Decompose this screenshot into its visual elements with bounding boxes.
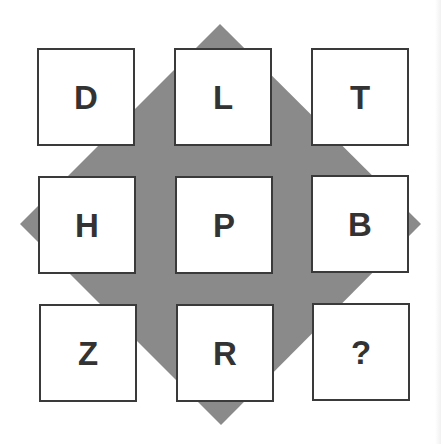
grid-cell-r1c0: H bbox=[38, 176, 136, 274]
puzzle-canvas: D L T H P B Z R ? bbox=[0, 0, 441, 444]
grid-cell-r2c1: R bbox=[176, 304, 274, 402]
cell-letter: T bbox=[350, 81, 370, 114]
grid-cell-r1c1: P bbox=[175, 176, 273, 274]
grid-cell-r1c2: B bbox=[311, 175, 409, 273]
cell-letter: R bbox=[213, 337, 237, 370]
cell-letter: Z bbox=[78, 337, 98, 370]
cell-letter: B bbox=[348, 208, 372, 241]
grid-cell-r2c2-unknown: ? bbox=[312, 303, 410, 401]
cell-letter: P bbox=[213, 209, 235, 242]
cell-letter: H bbox=[75, 209, 99, 242]
grid-cell-r0c0: D bbox=[37, 48, 135, 146]
page-edge-shadow bbox=[435, 0, 441, 444]
grid-cell-r2c0: Z bbox=[39, 304, 137, 402]
cell-letter: L bbox=[213, 81, 233, 114]
question-mark: ? bbox=[351, 336, 371, 369]
grid-cell-r0c1: L bbox=[174, 48, 272, 146]
grid-cell-r0c2: T bbox=[311, 48, 409, 146]
cell-letter: D bbox=[74, 81, 98, 114]
